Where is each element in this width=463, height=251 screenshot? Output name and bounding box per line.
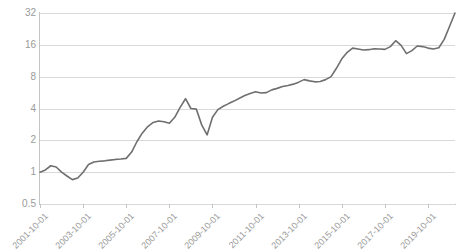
x-tick-mark-2007-10-01 [169,204,170,208]
x-tick-mark-2013-10-01 [299,204,300,208]
x-tick-mark-2015-10-01 [342,204,343,208]
x-tick-mark-2001-10-01 [40,204,41,208]
series-line-chart [0,0,463,251]
chart-container: 321684210.5 2001-10-012003-10-012005-10-… [0,0,463,251]
x-tick-mark-2003-10-01 [83,204,84,208]
x-tick-mark-2009-10-01 [212,204,213,208]
x-tick-mark-2017-10-01 [385,204,386,208]
x-tick-mark-2011-10-01 [256,204,257,208]
series-line-index [40,13,455,180]
x-tick-mark-2019-10-01 [428,204,429,208]
x-tick-mark-2005-10-01 [126,204,127,208]
